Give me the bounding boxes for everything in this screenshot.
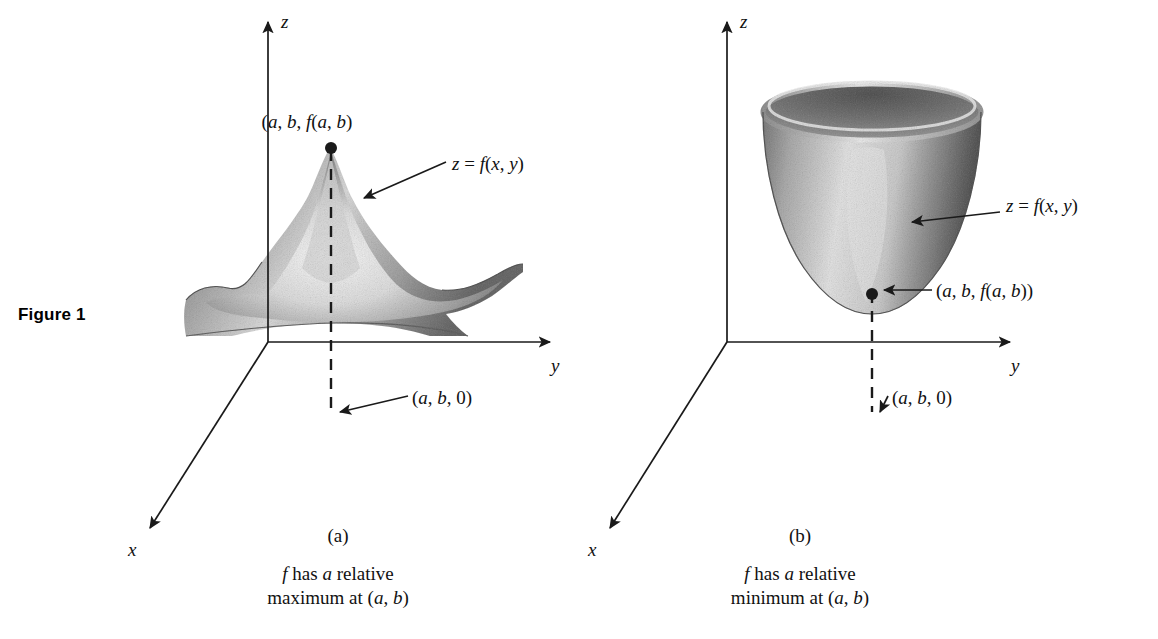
panel-a-y-axis-label: y: [549, 355, 560, 376]
panel-a-max-point-label: (a, b, f(a, b): [262, 111, 353, 133]
panel-a-z-axis-label: z: [280, 11, 289, 32]
panel-a-caption: (a) f has a relative maximum at (a, b): [238, 524, 438, 610]
panel-a-caption-line1: f has a relative: [238, 562, 438, 586]
panel-a-x-axis: [150, 342, 268, 528]
panel-b-caption-line2: minimum at (a, b): [700, 586, 900, 610]
panel-b-min-point-marker: [866, 288, 878, 300]
panel-b-id: (b): [700, 524, 900, 548]
panel-a-surface-leader: [364, 162, 446, 198]
panel-b-surface-label: z = f(x, y): [1005, 195, 1078, 217]
panel-b-caption: (b) f has a relative minimum at (a, b): [700, 524, 900, 610]
panel-a-base-point-leader: [340, 396, 408, 412]
panel-b-base-point-leader: [880, 396, 888, 412]
panel-a-caption-line2: maximum at (a, b): [238, 586, 438, 610]
panel-b-min-point-label: (a, b, f(a, b)): [936, 280, 1033, 302]
panel-a-surface-label: z = f(x, y): [451, 153, 524, 175]
panel-b-base-point-label: (a, b, 0): [892, 387, 952, 409]
panel-a-base-point-label: (a, b, 0): [412, 387, 472, 409]
figure-root: Figure 1: [0, 0, 1158, 639]
surface-relative-maximum: [184, 148, 523, 336]
panel-a-id: (a): [238, 524, 438, 548]
panel-a-graphic: z y x (a, b, f(a, b) z = f(x, y) (a, b, …: [127, 11, 560, 560]
panel-a-max-point-marker: [325, 142, 337, 154]
panel-a-x-axis-label: x: [127, 539, 137, 560]
panel-b-x-axis: [610, 342, 727, 528]
panel-b-z-axis-label: z: [739, 11, 748, 32]
panel-b-x-axis-label: x: [587, 539, 597, 560]
figure-canvas: z y x (a, b, f(a, b) z = f(x, y) (a, b, …: [0, 0, 1158, 639]
panel-b-caption-line1: f has a relative: [700, 562, 900, 586]
panel-b-graphic: z y x (a, b, f(a, b)) z = f(x, y) (a, b,…: [587, 11, 1078, 560]
panel-b-y-axis-label: y: [1009, 355, 1020, 376]
